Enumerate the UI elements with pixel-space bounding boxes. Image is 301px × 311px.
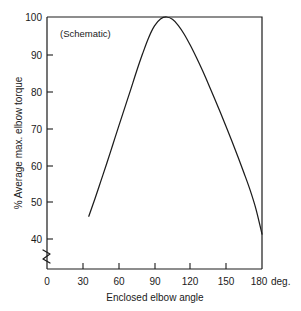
x-axis-unit-label: deg.: [271, 276, 290, 287]
x-tick-label-60: 60: [113, 276, 125, 287]
y-tick-label-40: 40: [31, 234, 43, 245]
y-tick-label-50: 50: [31, 197, 43, 208]
x-tick-label-120: 120: [182, 276, 199, 287]
x-tick-label-0: 0: [44, 276, 50, 287]
y-axis-title: % Average max. elbow torque: [13, 76, 24, 209]
x-tick-label-150: 150: [218, 276, 235, 287]
plot-border: [47, 17, 262, 269]
y-tick-label-60: 60: [31, 161, 43, 172]
y-axis-ticks: [47, 55, 53, 239]
y-axis-break-icon: [43, 250, 50, 263]
chart-svg: 100 90 80 70 60 50 40 0 30 60 90 120 150…: [0, 0, 301, 311]
x-axis-title: Enclosed elbow angle: [106, 292, 204, 303]
y-axis-tick-labels: 100 90 80 70 60 50 40: [25, 12, 42, 245]
schematic-annotation: (Schematic): [60, 28, 111, 39]
x-tick-label-90: 90: [149, 276, 161, 287]
torque-curve: [89, 17, 262, 234]
chart-figure: 100 90 80 70 60 50 40 0 30 60 90 120 150…: [0, 0, 301, 311]
y-tick-label-80: 80: [31, 87, 43, 98]
y-tick-label-90: 90: [31, 50, 43, 61]
x-tick-label-180: 180: [251, 276, 268, 287]
x-axis-tick-labels: 0 30 60 90 120 150 180: [44, 276, 268, 287]
y-tick-label-100: 100: [25, 12, 42, 23]
y-tick-label-70: 70: [31, 124, 43, 135]
plot-frame: [47, 17, 262, 269]
x-tick-label-30: 30: [77, 276, 89, 287]
x-axis-ticks: [83, 263, 226, 269]
